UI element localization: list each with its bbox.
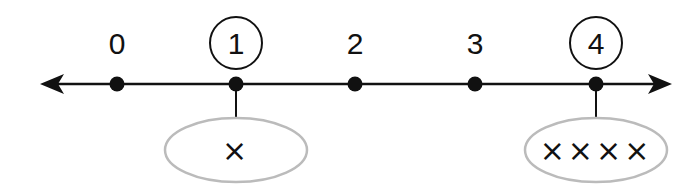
number-line-diagram: 01234 ××××× — [0, 0, 691, 195]
tick-label-4: 4 — [588, 27, 605, 60]
x-marks-4: ×××× — [540, 133, 653, 168]
tick-label-3: 3 — [467, 27, 484, 60]
x-marks-1: × — [222, 133, 250, 168]
tick-point-2 — [348, 77, 363, 92]
tick-points: 01234 — [109, 17, 622, 92]
tick-label-0: 0 — [109, 27, 126, 60]
groups: ××××× — [165, 84, 667, 182]
tick-label-1: 1 — [228, 27, 245, 60]
tick-point-0 — [110, 77, 125, 92]
tick-label-2: 2 — [347, 27, 364, 60]
tick-point-3 — [468, 77, 483, 92]
